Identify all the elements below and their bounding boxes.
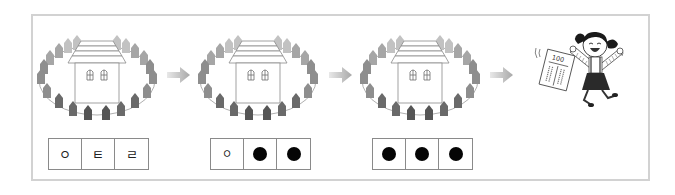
arrow-right-icon [167,66,191,84]
box-cell: ㅇ [49,139,82,169]
house-icon [31,30,163,122]
filled-dot-icon [382,147,396,161]
happy-girl-illustration: 100 [532,28,628,118]
box-cell [244,139,277,169]
letter-boxes-step-3 [372,138,473,170]
house-icon [192,30,324,122]
box-cell [439,139,472,169]
box-cell: ㅇ [211,139,244,169]
letter-boxes-step-1: ㅇ ㅌ ㄹ [48,138,149,170]
box-cell [277,139,310,169]
house-fence-scene-1 [31,30,163,122]
arrow-right-icon [490,66,514,84]
box-cell: ㅌ [82,139,115,169]
filled-dot-icon [253,147,267,161]
arrow-right-icon [329,66,353,84]
filled-dot-icon [449,147,463,161]
letter-ieung: ㅇ [222,149,232,160]
filled-dot-icon [415,147,429,161]
letter-ieung: ㅇ [59,148,71,161]
box-cell [406,139,439,169]
house-icon [354,30,486,122]
letter-rieul: ㄹ [126,148,138,161]
box-cell: ㄹ [115,139,148,169]
letter-boxes-step-2: ㅇ [210,138,311,170]
box-cell [373,139,406,169]
letter-tieut: ㅌ [92,148,104,161]
house-fence-scene-3 [354,30,486,122]
filled-dot-icon [287,147,301,161]
house-fence-scene-2 [192,30,324,122]
